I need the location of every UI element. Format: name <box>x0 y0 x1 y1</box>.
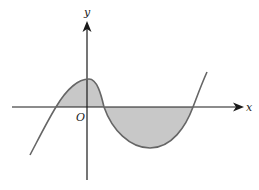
cubic-graph-diagram: y x O <box>0 0 259 190</box>
shaded-region-positive <box>56 79 104 107</box>
shaded-region-negative <box>104 107 193 148</box>
y-axis-label: y <box>83 6 91 19</box>
origin-label: O <box>76 111 85 124</box>
x-axis-label: x <box>246 101 253 114</box>
